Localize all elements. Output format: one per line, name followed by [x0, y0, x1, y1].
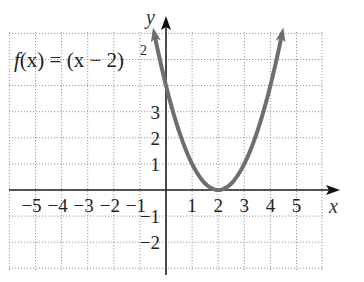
x-tick-label: −2: [100, 195, 120, 216]
function-label: f(x) = (x − 2): [14, 48, 124, 72]
y-tick-label: −1: [140, 206, 160, 227]
x-tick-label: −4: [47, 195, 68, 216]
y-tick-label: −2: [140, 232, 160, 253]
x-tick-label: 4: [266, 195, 276, 216]
y-tick-label: 2: [151, 128, 161, 149]
x-tick-label: 5: [292, 195, 302, 216]
x-tick-label: 3: [240, 195, 250, 216]
y-tick-label: 1: [151, 154, 161, 175]
function-label-exponent: 2: [140, 43, 147, 58]
x-tick-label: −5: [21, 195, 41, 216]
y-axis-label: y: [144, 6, 155, 29]
y-tick-label: 3: [151, 102, 161, 123]
x-tick-label: −3: [74, 195, 94, 216]
function-label-text: (x) = (x − 2): [20, 48, 124, 72]
x-axis-label: x: [328, 195, 338, 217]
graph-plot: −5−4−3−2−112345−2−1123 f(x) = (x − 2) 2 …: [0, 0, 364, 282]
x-tick-label: 1: [187, 195, 197, 216]
x-tick-label: 2: [213, 195, 223, 216]
